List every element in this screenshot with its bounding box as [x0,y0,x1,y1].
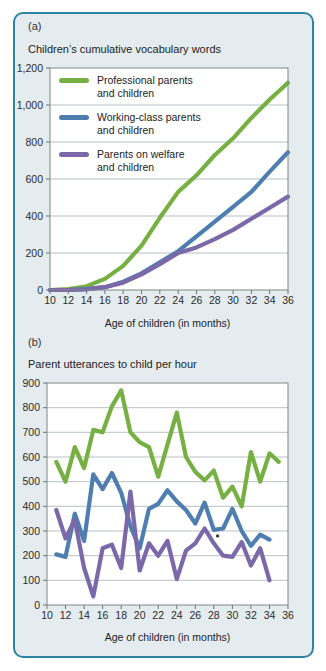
y-tick-label: 1,000 [17,99,43,111]
legend-label-line2: and children [97,124,154,136]
y-tick-label: 200 [25,247,43,259]
legend-label-line1: Working-class parents [97,111,201,123]
legend-item-welfare: Parents on welfare and children [59,148,201,185]
legend-label-line1: Professional parents [97,74,193,86]
x-tick-label: 22 [154,294,166,306]
y-tick-label: 700 [22,426,40,438]
x-tick-label: 28 [209,294,221,306]
y-tick-label: 200 [22,549,40,561]
figure-page: 02004006008001,0001,20010121416182022242… [0,0,326,671]
x-tick-label: 10 [41,609,53,621]
x-tick-label: 34 [264,294,276,306]
legend-swatch-working-class [59,115,89,120]
x-tick-label: 32 [246,294,258,306]
x-tick-label: 32 [245,609,257,621]
x-tick-label: 36 [282,294,294,306]
x-tick-label: 36 [282,609,294,621]
legend-item-working-class: Working-class parents and children [59,111,201,148]
legend-label-line2: and children [97,161,154,173]
x-tick-label: 26 [191,294,203,306]
y-tick-label: 400 [22,500,40,512]
y-tick-label: 500 [22,475,40,487]
x-tick-label: 12 [60,609,72,621]
x-tick-label: 28 [208,609,220,621]
x-tick-label: 26 [189,609,201,621]
y-tick-label: 0 [34,599,40,611]
legend-label-line1: Parents on welfare [97,148,185,160]
x-tick-label: 14 [78,609,90,621]
y-tick-label: 100 [22,574,40,586]
legend-label-line2: and children [97,87,154,99]
y-tick-label: 300 [22,525,40,537]
x-tick-label: 14 [81,294,93,306]
x-tick-label: 24 [172,294,184,306]
x-tick-label: 20 [136,294,148,306]
x-tick-label: 16 [97,609,109,621]
x-tick-label: 12 [62,294,74,306]
legend-label-working-class: Working-class parents and children [97,111,201,137]
legend-label-welfare: Parents on welfare and children [97,148,185,174]
x-tick-label: 30 [227,609,239,621]
legend-swatch-professional [59,78,89,83]
x-tick-label: 18 [115,609,127,621]
x-tick-label: 10 [44,294,56,306]
y-tick-label: 800 [22,401,40,413]
legend: Professional parents and children Workin… [59,74,201,185]
x-tick-label: 24 [171,609,183,621]
x-tick-label: 22 [152,609,164,621]
x-tick-label: 20 [134,609,146,621]
y-tick-label: 1,200 [17,62,43,74]
y-tick-label: 600 [25,173,43,185]
x-tick-label: 34 [264,609,276,621]
y-tick-label: 900 [22,377,40,389]
y-tick-label: 0 [37,284,43,296]
y-tick-label: 600 [22,451,40,463]
stray-dot [216,534,219,537]
x-tick-label: 16 [99,294,111,306]
x-tick-label: 18 [117,294,129,306]
x-tick-label: 30 [227,294,239,306]
y-tick-label: 800 [25,136,43,148]
legend-swatch-welfare [59,152,89,157]
y-tick-label: 400 [25,210,43,222]
legend-label-professional: Professional parents and children [97,74,193,100]
figure-frame: 02004006008001,0001,20010121416182022242… [13,12,314,658]
legend-item-professional: Professional parents and children [59,74,201,111]
